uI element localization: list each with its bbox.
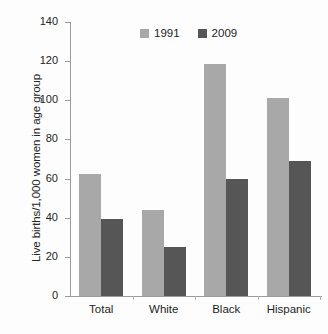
bar-total-2009 xyxy=(101,219,123,296)
legend-item-2009: 2009 xyxy=(198,27,238,39)
y-tick-label-text: 0 xyxy=(52,289,58,301)
y-tick-label-text: 40 xyxy=(46,211,58,223)
bar-black-2009 xyxy=(226,179,248,296)
bar-hispanic-1991 xyxy=(267,98,289,296)
y-tick-label-text: 60 xyxy=(46,172,58,184)
bar-chart-figure: Live births/1,000 women in age group 020… xyxy=(0,0,328,334)
x-tick-mark xyxy=(258,296,259,300)
x-category-label-white: White xyxy=(133,303,196,315)
y-tick-label-text: 100 xyxy=(40,93,58,105)
x-tick-mark xyxy=(195,296,196,300)
y-tick-mark xyxy=(65,296,70,297)
y-axis-label: Live births/1,000 women in age group xyxy=(30,38,42,298)
chart-legend: 19912009 xyxy=(140,27,237,39)
x-axis-line xyxy=(70,296,322,297)
legend-swatch-1991 xyxy=(140,29,149,38)
bar-black-1991 xyxy=(204,64,226,296)
legend-label-1991: 1991 xyxy=(154,27,180,39)
y-tick-label-text: 120 xyxy=(40,54,58,66)
bar-white-2009 xyxy=(164,247,186,296)
x-tick-mark xyxy=(320,296,321,300)
legend-item-1991: 1991 xyxy=(140,27,180,39)
x-category-label-black: Black xyxy=(195,303,258,315)
bar-white-1991 xyxy=(142,210,164,296)
y-tick-label-text: 20 xyxy=(46,250,58,262)
x-category-label-total: Total xyxy=(70,303,133,315)
x-category-label-hispanic: Hispanic xyxy=(258,303,321,315)
bar-total-1991 xyxy=(79,174,101,296)
plot-area xyxy=(70,22,320,296)
x-tick-mark xyxy=(133,296,134,300)
bar-hispanic-2009 xyxy=(289,161,311,296)
y-tick-label-text: 80 xyxy=(46,132,58,144)
y-tick-label-text: 140 xyxy=(40,15,58,27)
legend-label-2009: 2009 xyxy=(212,27,238,39)
legend-swatch-2009 xyxy=(198,29,207,38)
